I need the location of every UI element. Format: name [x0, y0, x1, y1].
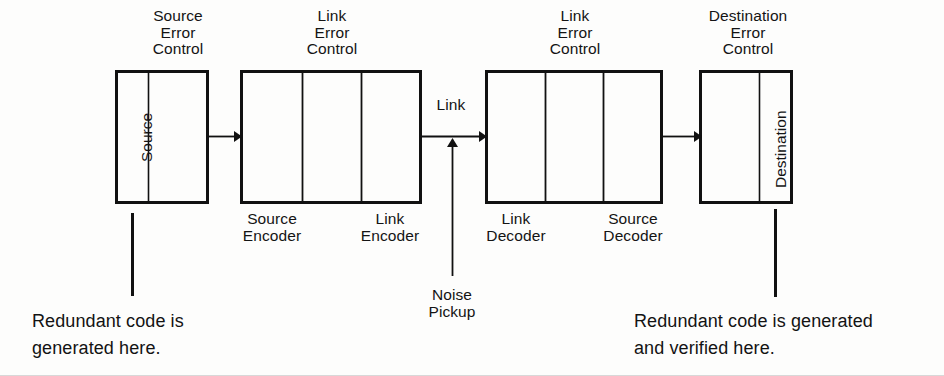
label-line: Link	[318, 7, 347, 24]
arrow-noise-pickup-head	[447, 138, 458, 147]
label-line: Encoder	[243, 227, 301, 244]
label-destination-vertical: Destination	[772, 110, 790, 188]
label-link-decoder: LinkDecoder	[486, 211, 545, 244]
label-link-channel: Link	[437, 97, 466, 114]
label-line: Decoder	[603, 227, 662, 244]
label-line: Noise	[432, 286, 472, 303]
label-line: Encoder	[361, 227, 419, 244]
label-line: Decoder	[486, 227, 545, 244]
label-line: Error	[315, 24, 350, 41]
source-box-outline	[117, 72, 208, 203]
label-line: Pickup	[428, 303, 475, 320]
label-destination-error-control: DestinationErrorControl	[709, 8, 788, 58]
label-link-error-control-decode: LinkErrorControl	[550, 8, 601, 58]
label-line: Control	[550, 40, 601, 57]
label-line: Source	[153, 7, 203, 24]
label-noise-pickup: NoisePickup	[428, 287, 475, 320]
label-line: Source	[247, 210, 297, 227]
decoder-box-outline	[487, 72, 662, 203]
encoder-box-outline	[242, 72, 421, 203]
label-line: Destination	[709, 7, 788, 24]
label-line: Source	[608, 210, 658, 227]
caption-left: Redundant code isgenerated here.	[32, 308, 184, 362]
caption-line: Redundant code is generated	[634, 311, 873, 331]
caption-line: generated here.	[32, 338, 161, 358]
caption-line: Redundant code is	[32, 311, 184, 331]
label-line: Error	[731, 24, 766, 41]
label-source-encoder: SourceEncoder	[243, 211, 301, 244]
label-line: Link	[502, 210, 531, 227]
label-line: Control	[153, 40, 204, 57]
label-source-vertical: Source	[138, 113, 156, 162]
label-line: Error	[161, 24, 196, 41]
label-line: Control	[307, 40, 358, 57]
diagram-canvas: SourceErrorControl LinkErrorControl Link…	[0, 0, 944, 376]
label-link-encoder: LinkEncoder	[361, 211, 419, 244]
label-line: Link	[376, 210, 405, 227]
caption-right: Redundant code is generatedand verified …	[634, 308, 873, 362]
label-source-decoder: SourceDecoder	[603, 211, 662, 244]
label-line: Error	[558, 24, 593, 41]
label-line: Control	[723, 40, 774, 57]
label-link-error-control-encode: LinkErrorControl	[307, 8, 358, 58]
caption-line: and verified here.	[634, 338, 775, 358]
label-source-error-control: SourceErrorControl	[153, 8, 204, 58]
label-line: Link	[561, 7, 590, 24]
